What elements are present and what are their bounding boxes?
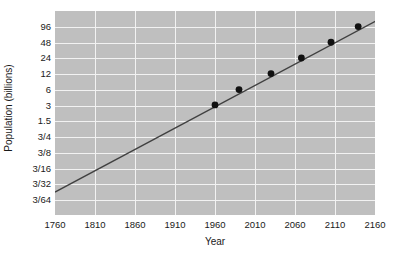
y-axis-tick-label: 24 bbox=[40, 53, 51, 63]
data-point-marker bbox=[298, 55, 305, 62]
x-axis-tick-label: 1860 bbox=[115, 219, 155, 230]
data-point-marker bbox=[328, 39, 335, 46]
x-axis-tick-label: 2160 bbox=[355, 219, 395, 230]
y-axis-tick-label: 3/8 bbox=[38, 148, 51, 158]
data-point-marker bbox=[236, 86, 243, 93]
data-point-markers bbox=[212, 23, 362, 108]
data-point-marker bbox=[268, 70, 275, 77]
y-axis-tick-label: 3/4 bbox=[38, 132, 51, 142]
x-axis-tick-label: 2060 bbox=[275, 219, 315, 230]
x-axis-tick-label: 1810 bbox=[75, 219, 115, 230]
x-axis-tick-label: 2010 bbox=[235, 219, 275, 230]
y-axis-tick-label: 48 bbox=[40, 38, 51, 48]
y-axis-tick-label: 3/64 bbox=[33, 195, 52, 205]
x-axis-tick-label: 2110 bbox=[315, 219, 355, 230]
x-axis-tick-label: 1910 bbox=[155, 219, 195, 230]
y-axis-tick-label: 3/16 bbox=[33, 164, 52, 174]
y-axis-tick-label: 3/32 bbox=[33, 179, 52, 189]
data-point-marker bbox=[212, 101, 219, 108]
population-growth-chart: Population (billions) 96482412631.53/43/… bbox=[0, 0, 401, 261]
y-axis-tick-label: 96 bbox=[40, 22, 51, 32]
x-axis-title: Year bbox=[55, 236, 375, 247]
y-axis-tick-label: 1.5 bbox=[38, 116, 51, 126]
x-axis-tick-label: 1960 bbox=[195, 219, 235, 230]
y-axis-tick-label: 3 bbox=[46, 101, 51, 111]
y-axis-tick-label: 12 bbox=[40, 69, 51, 79]
x-axis-tick-label: 1760 bbox=[35, 219, 75, 230]
plot-area bbox=[55, 11, 375, 215]
data-layer bbox=[55, 11, 375, 215]
y-axis-tick-label: 6 bbox=[46, 85, 51, 95]
data-point-marker bbox=[355, 23, 362, 30]
